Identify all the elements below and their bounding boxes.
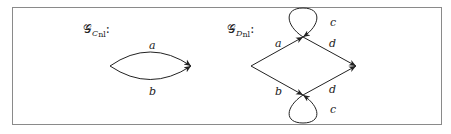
right-edge-d-top-label: d bbox=[329, 37, 336, 50]
right-loop-c-bottom-label: c bbox=[330, 103, 336, 116]
right-loop-c-top bbox=[289, 8, 317, 37]
right-loop-c-top-label: c bbox=[330, 16, 336, 29]
right-graph-title: 𝒢Dnl: bbox=[227, 22, 254, 39]
left-edge-a bbox=[110, 52, 191, 66]
left-edge-a-label: a bbox=[149, 39, 156, 52]
right-edge-a-label: a bbox=[275, 37, 282, 50]
diagram-canvas: 𝒢Cnl: a b 𝒢Dnl: a c d b c d bbox=[0, 0, 451, 134]
svg-text:𝒢Dnl:: 𝒢Dnl: bbox=[227, 22, 254, 39]
left-graph-title: 𝒢Cnl: bbox=[83, 22, 110, 39]
left-edge-b-label: b bbox=[149, 85, 156, 98]
right-edge-d-bottom-label: d bbox=[329, 83, 336, 96]
right-edge-b-label: b bbox=[275, 85, 282, 98]
svg-text:𝒢Cnl:: 𝒢Cnl: bbox=[83, 22, 110, 39]
right-loop-c-bottom bbox=[289, 95, 317, 123]
left-edge-b bbox=[110, 66, 191, 80]
